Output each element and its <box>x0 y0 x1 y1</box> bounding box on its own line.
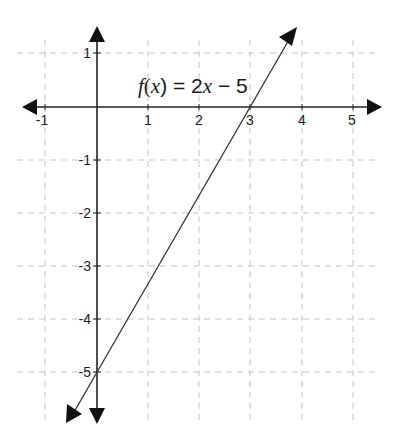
x-tick-label: 2 <box>195 112 203 128</box>
y-tick-label: -5 <box>79 364 92 380</box>
y-tick-label: -3 <box>79 258 92 274</box>
function-label: f(x) = 2x − 5 <box>138 74 248 98</box>
y-tick-label: -2 <box>79 205 92 221</box>
x-tick-label: 5 <box>348 112 356 128</box>
x-tick-label: 4 <box>298 112 306 128</box>
y-tick-labels: 1 -1 -2 -3 -4 -5 <box>79 45 92 380</box>
y-axis-down-arrow-icon <box>89 408 105 424</box>
x-tick-label: 3 <box>246 112 254 128</box>
y-axis <box>89 26 105 424</box>
x-axis-left-arrow-icon <box>22 99 37 115</box>
y-axis-up-arrow-icon <box>89 26 105 42</box>
y-tick-label: -1 <box>79 152 92 168</box>
line-top-arrow-icon <box>279 27 297 46</box>
y-tick-label: -4 <box>79 311 92 327</box>
line-bottom-arrow-icon <box>66 404 82 423</box>
x-tick-labels: -1 1 2 3 4 5 <box>36 112 356 128</box>
grid <box>17 40 380 420</box>
x-tick-label: 1 <box>144 112 152 128</box>
x-axis-right-arrow-icon <box>367 99 382 115</box>
y-tick-label: 1 <box>83 45 91 61</box>
function-graph: -1 1 2 3 4 5 1 -1 -2 -3 -4 -5 f(x) = 2x … <box>0 0 401 434</box>
x-tick-label: -1 <box>36 112 49 128</box>
